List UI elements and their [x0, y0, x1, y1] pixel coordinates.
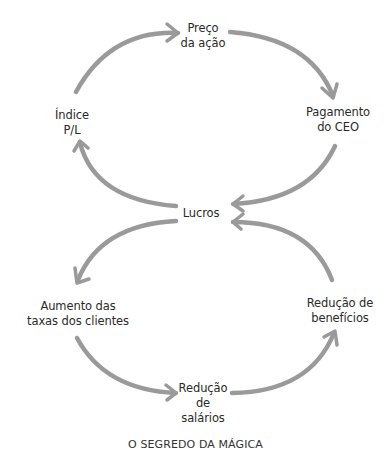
arrow-ceopay-to-profits [233, 146, 335, 211]
diagram-caption: O SEGREDO DA MÁGICA [128, 438, 263, 451]
node-wage-cuts: Redução de salários [179, 381, 228, 426]
node-profits-line1: Lucros [183, 206, 220, 221]
node-profits: Lucros [183, 206, 220, 221]
node-customer-fees: Aumento das taxas dos clientes [27, 299, 129, 329]
node-benefit-cuts: Redução de benefícios [307, 296, 374, 326]
node-ceo-pay-line2: do CEO [306, 120, 370, 135]
node-wage-cuts-line2: de [179, 396, 228, 411]
node-benefit-cuts-line2: benefícios [307, 311, 374, 326]
node-ceo-pay: Pagamento do CEO [306, 105, 370, 135]
node-stock-price: Preço da ação [181, 21, 226, 51]
node-ceo-pay-line1: Pagamento [306, 105, 370, 120]
node-pe-ratio-line2: P/L [55, 123, 89, 138]
node-pe-ratio: Índice P/L [55, 108, 89, 138]
arrow-price-to-ceopay [230, 32, 337, 98]
arrow-wagecuts-to-benefits [232, 331, 337, 393]
arrow-benefits-to-profits [233, 214, 332, 280]
node-wage-cuts-line1: Redução [179, 381, 228, 396]
arrow-profits-to-fees [75, 221, 176, 283]
arrow-pe-to-price [76, 24, 178, 92]
node-benefit-cuts-line1: Redução de [307, 296, 374, 311]
node-customer-fees-line1: Aumento das [27, 299, 129, 314]
node-stock-price-line2: da ação [181, 36, 226, 51]
node-wage-cuts-line3: salários [179, 411, 228, 426]
arrow-profits-to-pe [74, 141, 176, 206]
node-customer-fees-line2: taxas dos clientes [27, 314, 129, 329]
node-stock-price-line1: Preço [181, 21, 226, 36]
arrow-fees-to-wagecuts [77, 338, 176, 400]
node-pe-ratio-line1: Índice [55, 108, 89, 123]
